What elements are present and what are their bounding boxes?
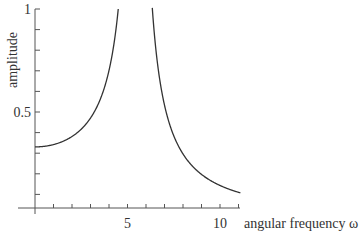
x-tick-label: 5 [124,216,131,231]
curve-left-branch [35,9,118,147]
x-tick-label: 10 [213,216,227,231]
y-tick-label: 0.5 [14,105,32,120]
y-tick-label: 1 [24,2,31,17]
y-axis-label: amplitude [5,32,20,88]
x-axis-label: angular frequency ω [244,216,358,231]
chart: 5100.51angular frequency ωamplitude [0,0,359,236]
curve-right-branch [152,8,240,193]
